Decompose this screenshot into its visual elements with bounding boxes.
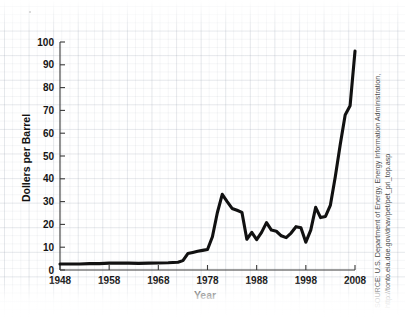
price-series-line: [60, 51, 355, 264]
y-axis-ticks: [60, 42, 65, 270]
y-tick-label: 50: [43, 151, 55, 162]
x-tick-label: 2008: [344, 275, 367, 286]
source-citation-line1: SOURCE: U.S. Department of Energy, Energ…: [373, 74, 382, 308]
y-tick-label: 90: [43, 59, 55, 70]
y-tick-label: 100: [37, 37, 54, 48]
x-tick-label: 1998: [295, 275, 318, 286]
y-tick-label: 20: [43, 219, 55, 230]
chart-svg: 0102030405060708090100 19481958196819781…: [0, 0, 405, 317]
oil-price-chart-figure: 0102030405060708090100 19481958196819781…: [0, 0, 405, 317]
x-axis-title: Year: [194, 289, 216, 301]
y-tick-label: 70: [43, 105, 55, 116]
scan-speck: [29, 11, 31, 13]
y-tick-label: 60: [43, 128, 55, 139]
x-axis-ticks: [60, 265, 355, 270]
x-axis-tick-labels: 1948195819681978198819982008: [49, 275, 367, 286]
chart-axes: [60, 42, 355, 270]
y-axis-title: Dollers per Barrel: [20, 114, 32, 202]
y-tick-label: 10: [43, 242, 55, 253]
y-tick-label: 40: [43, 173, 55, 184]
y-axis-tick-labels: 0102030405060708090100: [37, 37, 54, 276]
y-tick-label: 0: [48, 265, 54, 276]
y-tick-label: 30: [43, 196, 55, 207]
x-tick-label: 1978: [196, 275, 219, 286]
x-tick-label: 1948: [49, 275, 72, 286]
source-citation-line2: http://tonto.eia.doe.gov/dnav/pet/pet_pr…: [383, 154, 392, 308]
x-tick-label: 1958: [98, 275, 121, 286]
x-tick-label: 1968: [147, 275, 170, 286]
y-tick-label: 80: [43, 82, 55, 93]
x-tick-label: 1988: [246, 275, 269, 286]
